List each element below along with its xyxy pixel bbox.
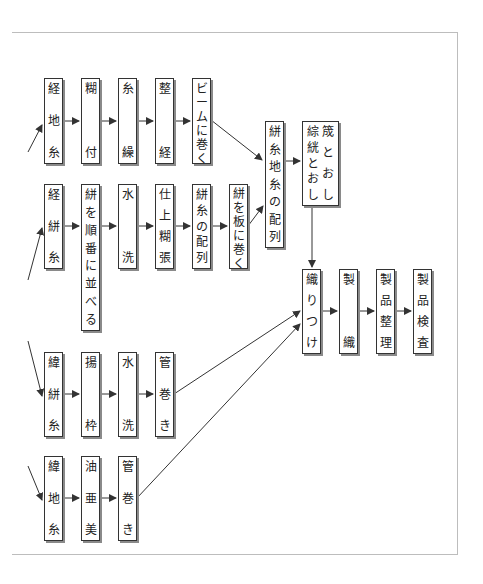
step-kudamaki-1: 管 巻 き bbox=[155, 352, 174, 437]
step-seishoku: 製 織 bbox=[339, 269, 358, 354]
step-char: 綜 bbox=[307, 125, 319, 139]
step-char: 理 bbox=[380, 336, 392, 350]
step-char: 板 bbox=[233, 215, 245, 229]
step-char: 管 bbox=[122, 460, 134, 474]
step-char: 絣 bbox=[196, 188, 208, 202]
step-char: る bbox=[85, 313, 97, 327]
step-char: 巻 bbox=[159, 388, 171, 402]
step-char: く bbox=[196, 152, 208, 166]
step-char: と bbox=[322, 146, 334, 160]
step-char: 巻 bbox=[122, 492, 134, 506]
step-char: 配 bbox=[196, 235, 208, 249]
step-char: 管 bbox=[159, 356, 171, 370]
step-char: し bbox=[307, 188, 319, 202]
step-char: し bbox=[322, 188, 334, 202]
step-char: の bbox=[269, 195, 281, 209]
step-char: 糸 bbox=[48, 251, 60, 265]
step-agewaku: 揚 枠 bbox=[81, 352, 100, 437]
step-char: り bbox=[306, 294, 318, 308]
step-kasuri-hairetsu: 絣 糸 の 配 列 bbox=[192, 184, 211, 269]
step-char: 品 bbox=[417, 294, 429, 308]
step-char: き bbox=[122, 523, 134, 537]
step-char: 緯 bbox=[48, 460, 60, 474]
step-seikei: 整 経 bbox=[155, 78, 174, 164]
step-char: お bbox=[322, 167, 334, 181]
step-beam: ビ ー ム に 巻 く bbox=[192, 78, 211, 164]
step-char: に bbox=[233, 229, 245, 243]
step-char: お bbox=[307, 172, 319, 186]
step-char: 油 bbox=[85, 460, 97, 474]
connector-lines bbox=[0, 0, 483, 584]
step-tooshi: 綜 絖 と お し 筬 と お し bbox=[302, 121, 339, 206]
step-ikasuri: 緯 絣 糸 bbox=[44, 352, 63, 437]
step-char: を bbox=[233, 201, 245, 215]
step-char: 整 bbox=[380, 315, 392, 329]
step-char: 糊 bbox=[159, 230, 171, 244]
step-char: 亜 bbox=[85, 492, 97, 506]
step-char: 糸 bbox=[269, 178, 281, 192]
step-char: 糸 bbox=[48, 523, 60, 537]
step-char: べ bbox=[85, 295, 97, 309]
step-char: 絖 bbox=[307, 141, 319, 155]
step-char: 製 bbox=[343, 273, 355, 287]
step-hairetsu: 絣 糸 地 糸 の 配 列 bbox=[265, 121, 284, 248]
step-char: 糸 bbox=[269, 143, 281, 157]
step-char: 絣 bbox=[85, 188, 97, 202]
step-char: 製 bbox=[380, 273, 392, 287]
step-char: 糸 bbox=[196, 204, 208, 218]
step-char: の bbox=[196, 220, 208, 234]
step-char: 巻 bbox=[233, 243, 245, 257]
step-char: 製 bbox=[417, 273, 429, 287]
step-char: 美 bbox=[85, 523, 97, 537]
step-seihin-kensa: 製 品 検 査 bbox=[413, 269, 432, 354]
step-char: 品 bbox=[380, 294, 392, 308]
step-char: 列 bbox=[196, 251, 208, 265]
step-char: 仕 bbox=[159, 188, 171, 202]
step-ita-ni-maku: 絣 を 板 に 巻 く bbox=[229, 184, 248, 269]
step-char: 水 bbox=[122, 188, 134, 202]
step-char: 糸 bbox=[48, 146, 60, 160]
step-char: 絣 bbox=[48, 388, 60, 402]
step-itokuri: 糸 繰 bbox=[118, 78, 137, 164]
step-char: 経 bbox=[48, 82, 60, 96]
step-char: ム bbox=[196, 110, 208, 124]
step-char: を bbox=[85, 206, 97, 220]
step-char: 繰 bbox=[122, 146, 134, 160]
step-char: と bbox=[307, 157, 319, 171]
step-char: き bbox=[159, 419, 171, 433]
step-junban: 絣 を 順 番 に 並 べ る bbox=[81, 184, 100, 331]
step-oritsuke: 織 り つ け bbox=[302, 269, 321, 354]
step-char: 配 bbox=[269, 213, 281, 227]
step-suisen-1: 水 洗 bbox=[118, 184, 137, 269]
step-char: 糸 bbox=[48, 419, 60, 433]
step-keikasuri: 経 絣 糸 bbox=[44, 184, 63, 269]
step-shiage: 仕 上 糊 張 bbox=[155, 184, 174, 269]
step-char: 並 bbox=[85, 277, 97, 291]
step-char: 緯 bbox=[48, 356, 60, 370]
step-char: 検 bbox=[417, 315, 429, 329]
step-char: 列 bbox=[269, 230, 281, 244]
step-keiji: 経 地 糸 bbox=[44, 78, 63, 164]
step-char: に bbox=[85, 259, 97, 273]
heddle-threading-column: 綜 絖 と お し bbox=[307, 125, 319, 202]
step-char: ビ bbox=[196, 82, 208, 96]
step-yuami: 油 亜 美 bbox=[81, 456, 100, 541]
step-char: 地 bbox=[48, 492, 60, 506]
step-char: 整 bbox=[159, 82, 171, 96]
step-char: 織 bbox=[306, 273, 318, 287]
step-char: 上 bbox=[159, 209, 171, 223]
step-char: 筬 bbox=[322, 125, 334, 139]
step-char: 洗 bbox=[122, 251, 134, 265]
step-char: つ bbox=[306, 315, 318, 329]
reed-threading-column: 筬 と お し bbox=[322, 125, 334, 202]
step-iji: 緯 地 糸 bbox=[44, 456, 63, 541]
step-seihin-seiri: 製 品 整 理 bbox=[376, 269, 395, 354]
step-char: 枠 bbox=[85, 419, 97, 433]
step-char: ー bbox=[196, 96, 208, 110]
step-char: 水 bbox=[122, 356, 134, 370]
step-char: 経 bbox=[48, 188, 60, 202]
step-char: 地 bbox=[269, 160, 281, 174]
step-norizuke: 糊 付 bbox=[81, 78, 100, 164]
step-char: 揚 bbox=[85, 356, 97, 370]
step-char: 糸 bbox=[122, 82, 134, 96]
